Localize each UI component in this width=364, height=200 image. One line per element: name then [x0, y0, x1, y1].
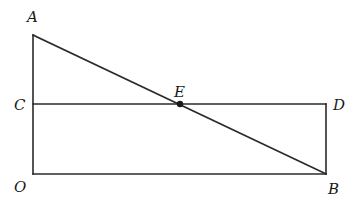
label-E: E	[173, 83, 185, 101]
label-O: O	[14, 178, 26, 196]
label-B: B	[327, 180, 339, 198]
geometry-diagram: A E C D O B	[0, 0, 364, 200]
label-D: D	[332, 96, 345, 114]
label-C: C	[14, 96, 26, 114]
label-A: A	[25, 8, 38, 26]
point-E-dot	[177, 101, 183, 107]
